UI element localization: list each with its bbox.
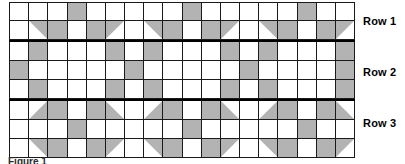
pattern-cell [259, 42, 278, 61]
pattern-cell [29, 120, 48, 139]
pattern-cell [317, 139, 336, 158]
pattern-cell [163, 21, 182, 40]
pattern-cell [202, 80, 221, 99]
pattern-cell [163, 120, 182, 139]
pattern-cell [106, 80, 125, 99]
pattern-subrow [9, 2, 355, 21]
pattern-cell [87, 101, 106, 120]
pattern-cell [68, 120, 87, 139]
pattern-subrow [9, 80, 355, 99]
pattern-cell [29, 21, 48, 40]
row-label-row-3: Row 3 [363, 117, 396, 129]
pattern-cell [125, 61, 144, 80]
pattern-cell [278, 42, 297, 61]
pattern-cell [163, 139, 182, 158]
pattern-cell [87, 120, 106, 139]
pattern-cell [29, 80, 48, 99]
pattern-cell [336, 21, 355, 40]
row-label-row-2: Row 2 [363, 66, 396, 78]
pattern-cell [317, 42, 336, 61]
pattern-cell [240, 2, 259, 21]
pattern-cell [336, 101, 355, 120]
pattern-cell [202, 21, 221, 40]
pattern-cell [106, 42, 125, 61]
pattern-cell [202, 101, 221, 120]
pattern-cell [317, 2, 336, 21]
pattern-cell [240, 61, 259, 80]
pattern-cell [125, 101, 144, 120]
pattern-cell [68, 139, 87, 158]
pattern-cell [9, 120, 29, 139]
pattern-cell [106, 21, 125, 40]
pattern-cell [183, 80, 202, 99]
pattern-cell [278, 80, 297, 99]
pattern-cell [87, 2, 106, 21]
pattern-grid [9, 2, 355, 155]
pattern-cell [317, 120, 336, 139]
pattern-subrow [9, 139, 355, 158]
pattern-cell [259, 120, 278, 139]
pattern-cell [68, 42, 87, 61]
pattern-cell [9, 61, 29, 80]
pattern-cell [336, 80, 355, 99]
pattern-cell [106, 120, 125, 139]
figure-caption: Figure 1 [8, 157, 47, 164]
pattern-cell [317, 80, 336, 99]
pattern-cell [259, 139, 278, 158]
pattern-band-2 [9, 40, 355, 99]
pattern-cell [87, 21, 106, 40]
pattern-cell [183, 42, 202, 61]
pattern-cell [221, 120, 240, 139]
pattern-cell [221, 2, 240, 21]
pattern-cell [278, 101, 297, 120]
pattern-cell [240, 101, 259, 120]
pattern-cell [298, 42, 317, 61]
figure-container: Row 1 Row 2 Row 3 Figure 1 [0, 0, 405, 164]
pattern-cell [221, 61, 240, 80]
pattern-cell [125, 2, 144, 21]
pattern-cell [278, 2, 297, 21]
pattern-cell [125, 42, 144, 61]
pattern-cell [87, 139, 106, 158]
pattern-cell [259, 101, 278, 120]
pattern-cell [221, 21, 240, 40]
pattern-cell [278, 139, 297, 158]
pattern-cell [9, 101, 29, 120]
pattern-cell [298, 139, 317, 158]
pattern-cell [29, 139, 48, 158]
pattern-cell [336, 139, 355, 158]
pattern-cell [48, 120, 67, 139]
pattern-cell [9, 139, 29, 158]
pattern-cell [48, 2, 67, 21]
pattern-cell [68, 21, 87, 40]
pattern-subrow [9, 120, 355, 139]
pattern-cell [221, 42, 240, 61]
pattern-cell [240, 42, 259, 61]
pattern-cell [183, 21, 202, 40]
pattern-cell [106, 61, 125, 80]
pattern-cell [144, 42, 163, 61]
pattern-cell [144, 61, 163, 80]
pattern-cell [183, 2, 202, 21]
pattern-cell [106, 139, 125, 158]
pattern-cell [202, 2, 221, 21]
pattern-cell [240, 80, 259, 99]
pattern-cell [240, 120, 259, 139]
pattern-subrow [9, 61, 355, 80]
pattern-cell [29, 2, 48, 21]
pattern-cell [106, 101, 125, 120]
pattern-cell [48, 80, 67, 99]
pattern-cell [278, 120, 297, 139]
pattern-cell [144, 139, 163, 158]
pattern-cell [298, 61, 317, 80]
pattern-band-1 [9, 2, 355, 40]
pattern-cell [9, 80, 29, 99]
pattern-cell [29, 101, 48, 120]
pattern-cell [144, 2, 163, 21]
pattern-subrow [9, 42, 355, 61]
pattern-cell [298, 2, 317, 21]
pattern-cell [202, 139, 221, 158]
pattern-cell [144, 21, 163, 40]
pattern-cell [144, 80, 163, 99]
pattern-cell [183, 61, 202, 80]
